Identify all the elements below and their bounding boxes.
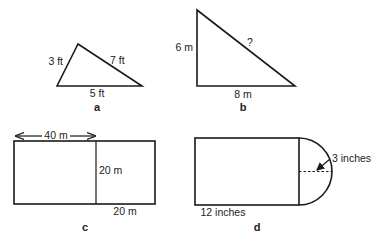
bottom-width-label: 20 m — [113, 205, 137, 217]
figure-b: 6 m ? 8 m b — [175, 10, 295, 113]
length-label: 12 inches — [201, 206, 246, 218]
caption-d: d — [254, 221, 261, 233]
caption-b: b — [240, 101, 247, 113]
triangle-a — [57, 44, 142, 86]
caption-c: c — [82, 221, 88, 233]
caption-a: a — [94, 101, 101, 113]
divider-height-label: 20 m — [99, 164, 123, 176]
figure-c: 40 m 20 m 20 m c — [14, 129, 155, 233]
geometry-figures: 3 ft 7 ft 5 ft a 6 m ? 8 m b 40 m 20 m 2… — [0, 0, 389, 245]
side-base-label: 5 ft — [90, 87, 105, 99]
figure-d: 3 inches 12 inches d — [195, 138, 371, 233]
side-left-label: 3 ft — [48, 55, 63, 67]
side-right-label: 7 ft — [110, 54, 125, 66]
top-width-label: 40 m — [44, 129, 68, 141]
hypotenuse-label: ? — [247, 36, 253, 48]
height-label: 6 m — [175, 41, 193, 53]
rectangle-d — [195, 138, 299, 205]
base-label: 8 m — [234, 88, 252, 100]
radius-label: 3 inches — [332, 152, 371, 164]
radius-pointer-arrow — [317, 159, 330, 170]
triangle-b — [197, 10, 295, 86]
figure-a: 3 ft 7 ft 5 ft a — [48, 44, 142, 113]
rectangle-c — [14, 141, 155, 204]
